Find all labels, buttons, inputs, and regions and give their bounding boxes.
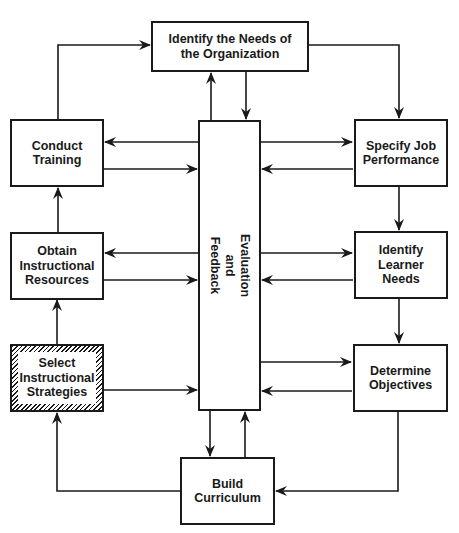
node-label: Select Instructional Strategies xyxy=(19,356,94,400)
arrow-determine-to-build xyxy=(276,411,398,491)
node-conduct-training: Conduct Training xyxy=(10,119,104,187)
node-label: Evaluation and Feedback xyxy=(207,234,252,297)
node-label: Determine Objectives xyxy=(369,364,432,393)
node-obtain-resources: Obtain Instructional Resources xyxy=(10,232,104,300)
node-identify-org-needs: Identify the Needs of the Organization xyxy=(151,21,309,72)
node-select-strategies: Select Instructional Strategies xyxy=(10,344,104,412)
arrow-needs-to-specify xyxy=(309,45,399,118)
arrow-training-to-needs xyxy=(58,45,150,119)
node-label: Conduct Training xyxy=(32,139,83,168)
node-identify-learner-needs: Identify Learner Needs xyxy=(354,231,448,299)
arrow-build-to-select xyxy=(57,413,180,491)
node-label: Obtain Instructional Resources xyxy=(19,244,94,288)
node-determine-objectives: Determine Objectives xyxy=(353,344,448,412)
node-label: Build Curriculum xyxy=(194,477,261,506)
node-label: Identify Learner Needs xyxy=(378,243,424,287)
node-build-curriculum: Build Curriculum xyxy=(180,457,275,525)
node-evaluation-feedback: Evaluation and Feedback xyxy=(198,120,261,411)
node-label: Identify the Needs of the Organization xyxy=(169,32,292,61)
node-label: Specify Job Performance xyxy=(363,139,439,168)
node-specify-job-performance: Specify Job Performance xyxy=(354,119,448,187)
